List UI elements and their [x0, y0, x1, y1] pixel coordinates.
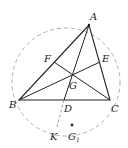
extension-dk [57, 100, 64, 127]
label-f: F [43, 53, 52, 64]
label-g1: G1 [68, 131, 80, 143]
label-b: B [8, 99, 16, 110]
circumcircle [12, 28, 120, 136]
label-e: E [101, 53, 110, 64]
median-be [19, 62, 100, 100]
geometry-diagram: A B C D E F G K G1 [0, 0, 128, 148]
label-g1-main: G [68, 131, 76, 142]
label-g: G [69, 80, 77, 91]
label-g1-sub: 1 [76, 136, 80, 143]
point-a-dot [88, 24, 90, 26]
triangle-abc [19, 25, 110, 100]
label-a: A [89, 11, 97, 22]
label-d: D [63, 103, 72, 114]
median-cf [54, 62, 110, 100]
point-g1-dot [71, 124, 74, 127]
label-k: K [49, 131, 58, 142]
label-c: C [111, 103, 119, 114]
